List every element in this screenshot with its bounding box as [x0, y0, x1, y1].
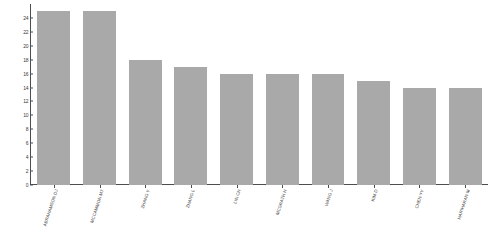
y-tick-label: 20 — [23, 43, 30, 48]
y-tick: 10 — [23, 113, 30, 118]
y-tick: 22 — [23, 29, 30, 34]
bar[interactable] — [266, 74, 299, 185]
bar[interactable] — [220, 74, 253, 185]
bars-container — [31, 4, 488, 185]
bar[interactable] — [449, 88, 482, 185]
y-tick-label: 22 — [23, 29, 30, 34]
x-tick-label: HARIHARAN M — [457, 189, 471, 220]
bar[interactable] — [403, 88, 436, 185]
y-tick-label: 16 — [23, 71, 30, 76]
y-tick: 6 — [26, 141, 30, 146]
bar[interactable] — [37, 11, 70, 185]
y-tick: 0 — [26, 183, 30, 188]
x-tick-label: ZHANG Y — [141, 189, 151, 209]
x-tick-label: ZHANG L — [186, 189, 196, 209]
x-tick-mark — [465, 185, 466, 188]
x-tick-label: CHEN YY — [415, 189, 425, 209]
x-tick-label: ABRAHAMSON DJ — [43, 189, 59, 227]
x-tick-mark — [374, 185, 375, 188]
y-tick: 18 — [23, 57, 30, 62]
bar[interactable] — [83, 11, 116, 185]
y-tick: 14 — [23, 85, 30, 90]
y-tick: 8 — [26, 127, 30, 132]
bar[interactable] — [312, 74, 345, 185]
y-tick: 4 — [26, 155, 30, 160]
y-tick: 2 — [26, 169, 30, 174]
bar[interactable] — [357, 81, 390, 185]
bar-chart: 024681012141618202224 ABRAHAMSON DJMCCAM… — [0, 0, 496, 244]
y-tick: 20 — [23, 43, 30, 48]
bar[interactable] — [174, 67, 207, 185]
x-tick-mark — [54, 185, 55, 188]
y-tick-label: 24 — [23, 15, 30, 20]
y-tick-label: 18 — [23, 57, 30, 62]
bar[interactable] — [129, 60, 162, 185]
x-tick-label: MCCAMMON MT — [90, 189, 105, 224]
y-tick-label: 10 — [23, 113, 30, 118]
x-tick-label: WANG J — [324, 189, 334, 207]
y-tick-label: 12 — [23, 99, 30, 104]
y-tick: 12 — [23, 99, 30, 104]
x-tick-mark — [237, 185, 238, 188]
x-axis-ticks: ABRAHAMSON DJMCCAMMON MTZHANG YZHANG LLI… — [31, 185, 488, 244]
x-tick-mark — [328, 185, 329, 188]
x-tick-mark — [191, 185, 192, 188]
x-tick-label: MCGRATH H — [276, 189, 288, 216]
y-tick: 16 — [23, 71, 30, 76]
y-tick-label: 14 — [23, 85, 30, 90]
x-tick-label: LIN CH — [234, 189, 243, 204]
y-tick: 24 — [23, 15, 30, 20]
x-tick-label: KIM D — [371, 189, 379, 202]
